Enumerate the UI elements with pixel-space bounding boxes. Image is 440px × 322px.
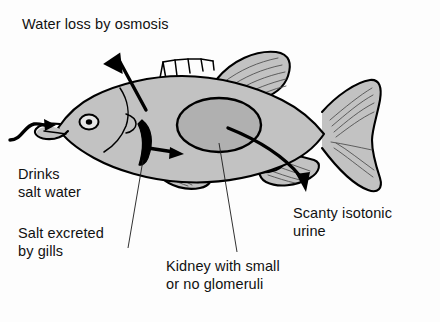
figure-root: Water loss by osmosis Drinks salt water … (0, 0, 440, 322)
caudal-fin (322, 80, 381, 191)
eye (80, 115, 99, 130)
fish-anatomy-illustration (0, 0, 440, 322)
fish-body (35, 76, 324, 182)
